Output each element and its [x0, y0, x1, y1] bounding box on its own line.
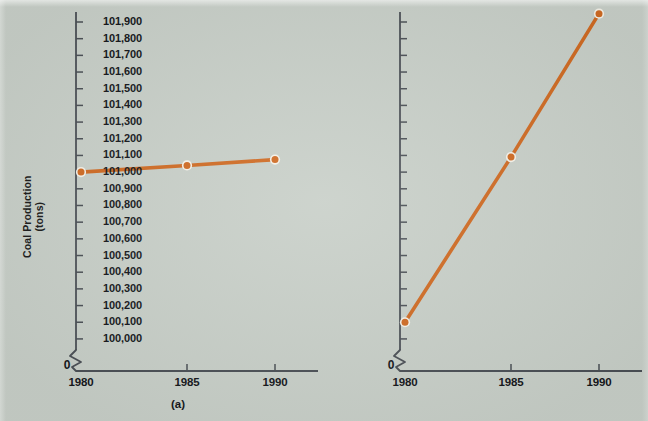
y-tick-label-b-100700: 100,700 [72, 215, 142, 227]
y-tick-label-b-100500: 100,500 [72, 249, 142, 261]
figure-canvas: Coal Production (tons) 5,9005,8005,7005,… [0, 0, 648, 421]
data-point-1985 [182, 160, 192, 170]
y-tick-label-b-100100: 100,100 [72, 315, 142, 327]
y-axis-zero-label-a: 0 [64, 358, 71, 372]
x-tick-label-b-1990: 1990 [586, 376, 611, 388]
y-tick-label-b-100200: 100,200 [72, 299, 142, 311]
x-tick-label-b-1980: 1980 [392, 376, 417, 388]
y-tick-labels-b: 101,900101,800101,700101,600101,500101,4… [324, 0, 396, 421]
x-tick-label-a-1985: 1985 [174, 376, 199, 388]
y-tick-label-b-101500: 101,500 [72, 82, 142, 94]
chart-panel-a: Coal Production (tons) 5,9005,8005,7005,… [0, 0, 324, 421]
y-tick-label-b-101100: 101,100 [72, 148, 142, 160]
y-tick-label-b-101400: 101,400 [72, 98, 142, 110]
y-tick-label-b-101600: 101,600 [72, 65, 142, 77]
data-point-1990 [594, 9, 604, 19]
data-point-1985 [506, 152, 516, 162]
y-tick-label-b-100400: 100,400 [72, 265, 142, 277]
y-tick-label-b-101800: 101,800 [72, 32, 142, 44]
y-tick-label-b-101200: 101,200 [72, 132, 142, 144]
panel-caption-a: (a) [171, 398, 185, 410]
y-tick-label-b-100000: 100,000 [72, 332, 142, 344]
y-tick-label-b-101700: 101,700 [72, 48, 142, 60]
y-axis-zero-label-b: 0 [388, 358, 395, 372]
y-tick-label-b-100900: 100,900 [72, 182, 142, 194]
data-point-1980 [400, 317, 410, 327]
y-tick-label-b-100800: 100,800 [72, 198, 142, 210]
y-tick-label-b-101900: 101,900 [72, 15, 142, 27]
y-tick-label-b-100600: 100,600 [72, 232, 142, 244]
plot-area-a [0, 0, 324, 421]
y-tick-label-b-100300: 100,300 [72, 282, 142, 294]
x-tick-label-a-1980: 1980 [68, 376, 93, 388]
x-tick-label-a-1990: 1990 [262, 376, 287, 388]
y-tick-label-b-101000: 101,000 [72, 165, 142, 177]
data-point-1990 [270, 155, 280, 165]
y-tick-label-b-101300: 101,300 [72, 115, 142, 127]
x-tick-label-b-1985: 1985 [498, 376, 523, 388]
